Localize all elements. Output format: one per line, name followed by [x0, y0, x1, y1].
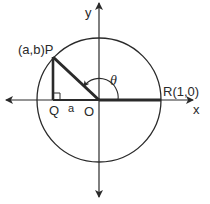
point-p-label: (a,b)P	[18, 42, 53, 57]
segment-a-label: a	[68, 102, 75, 114]
theta-label: θ	[110, 73, 117, 88]
x-axis-label: x	[193, 102, 200, 117]
origin-label: O	[84, 104, 94, 119]
y-axis-label: y	[85, 5, 92, 20]
unit-circle-diagram: y x (a,b)P Q a O R(1,0) θ	[0, 0, 210, 204]
point-r-label: R(1,0)	[163, 84, 199, 99]
point-q-label: Q	[49, 103, 59, 118]
